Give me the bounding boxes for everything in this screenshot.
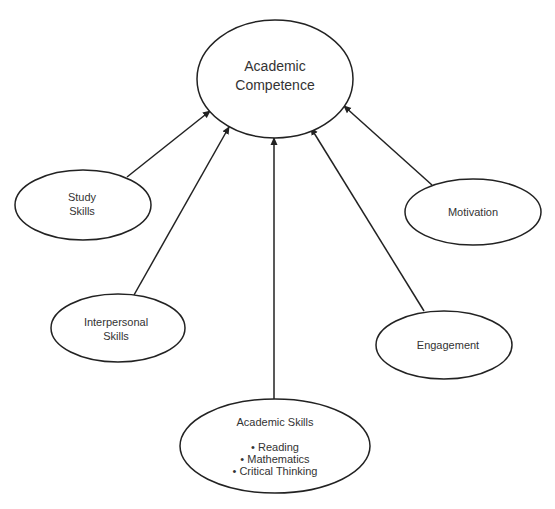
academic-skills-title: Academic Skills — [236, 416, 314, 428]
study-skills-label-line1: Study — [68, 191, 97, 203]
academic-competence-label-line1: Academic — [244, 58, 305, 74]
interpersonal-skills-label-line2: Skills — [103, 330, 129, 342]
edge-motivation-to-academic-competence — [344, 106, 432, 185]
academic-competence-label-line2: Competence — [235, 77, 315, 93]
ellipse-interpersonal-skills — [51, 294, 185, 362]
concept-diagram: Academic Competence Study Skills Interpe… — [0, 0, 555, 509]
node-academic-skills: Academic Skills • Reading • Mathematics … — [180, 399, 370, 493]
edge-study-skills-to-academic-competence — [127, 111, 210, 177]
node-study-skills: Study Skills — [15, 170, 151, 240]
node-motivation: Motivation — [405, 179, 541, 245]
study-skills-label-line2: Skills — [69, 205, 95, 217]
node-interpersonal-skills: Interpersonal Skills — [51, 294, 185, 362]
node-academic-competence: Academic Competence — [197, 20, 353, 138]
engagement-label: Engagement — [417, 339, 479, 351]
academic-skills-bullet-critical-thinking: • Critical Thinking — [233, 465, 318, 477]
motivation-label: Motivation — [448, 206, 498, 218]
interpersonal-skills-label-line1: Interpersonal — [84, 316, 148, 328]
academic-skills-bullet-mathematics: • Mathematics — [240, 453, 310, 465]
node-engagement: Engagement — [376, 311, 512, 379]
academic-skills-bullet-reading: • Reading — [251, 441, 299, 453]
